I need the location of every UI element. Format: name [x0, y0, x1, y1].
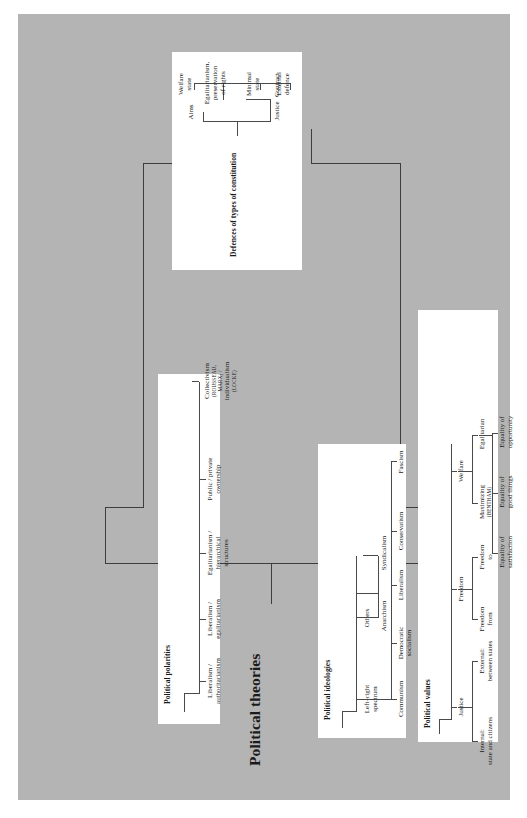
values-internal: Internal: state and citizens: [479, 710, 495, 772]
page-title: Political theories: [246, 586, 263, 766]
constitution-external-defence: External defence: [276, 56, 292, 112]
polarities-item-1: Liberalism / authoritarianism: [207, 650, 223, 712]
values-freedom-spine: [472, 558, 473, 620]
ideologies-spine: [356, 556, 357, 712]
polarities-stem: [184, 694, 185, 712]
ideologies-title: Political ideologies: [324, 600, 333, 720]
values-freedom-v: [458, 589, 472, 590]
polarities-tick-3: [199, 553, 206, 554]
values-equality-opportunity: Equality of opportunity: [499, 404, 515, 460]
values-title: Political values: [424, 618, 433, 728]
constitution-stem: [237, 122, 238, 136]
diagram-stage: Political theories Political polarities: [18, 14, 510, 800]
ideologies-leftright-v: [363, 699, 391, 700]
polarities-tick-4: [199, 479, 206, 480]
branch-to-values-v: [311, 163, 401, 164]
branch-to-polarities: [105, 507, 106, 564]
diagram-page: Political theories Political polarities: [0, 0, 527, 818]
ideologies-communism: Communism: [398, 670, 406, 728]
ideologies-stem-v: [342, 711, 356, 712]
polarities-item-4: Public / private ownership: [207, 446, 223, 512]
constitution-egalitarianism: Egalitarianism, preservation of rights: [204, 46, 227, 120]
political-polarities-title: Political polarities: [164, 574, 173, 704]
polarities-item-2: Liberalism / egalitarianism: [207, 588, 223, 650]
constitution-spine: [203, 121, 271, 122]
values-justice-spine: [472, 662, 473, 742]
ideologies-others-spine: [378, 556, 379, 618]
constitution-justice-tick: [270, 112, 271, 122]
ideologies-stem: [342, 712, 343, 728]
polarities-spine: [199, 382, 200, 694]
branch-to-polarities-v: [105, 507, 144, 508]
branch-to-values-stub: [311, 129, 312, 164]
ideologies-liberalism: Liberalism: [398, 560, 406, 610]
ideologies-anarchism: Anarchism: [381, 590, 389, 642]
values-spine: [451, 444, 452, 720]
diagram-panel: Political theories Political polarities: [18, 14, 510, 800]
ideologies-conservatism: Conservatism: [398, 500, 406, 562]
values-welfare-spine: [472, 436, 473, 504]
ideologies-syndicalism-v: [363, 555, 378, 556]
values-stem: [439, 720, 440, 734]
constitution-minimal-state: Minimal state: [246, 58, 262, 110]
ideologies-anarchism-v: [363, 617, 378, 618]
ideologies-fascism: Fascism: [398, 438, 406, 486]
polarities-tick-5: [192, 381, 199, 382]
values-stem-v: [439, 719, 451, 720]
polarities-item-5-line5: (LOCKE): [232, 346, 238, 416]
ideologies-leaf-spine: [391, 462, 392, 700]
polarities-spine-drop: [184, 693, 200, 694]
ideologies-others-v: [356, 593, 378, 594]
values-equality-v: [479, 435, 492, 436]
polarities-tick-2: [199, 619, 206, 620]
constitution-leaf-tick-1: [194, 83, 195, 90]
ideologies-syndicalism: Syndicalism: [381, 526, 389, 580]
values-welfare-v: [458, 471, 472, 472]
trunk-stub: [271, 564, 272, 604]
constitution-contract-h: [270, 99, 271, 112]
constitution-title: Defences of types of constitution: [230, 92, 239, 257]
branch-to-polarities-h: [143, 163, 144, 508]
ideologies-democratic-socialism: Democratic socialism: [398, 614, 414, 672]
values-freedom-from: Freedom from: [479, 594, 495, 644]
ideologies-tick-leftright: [356, 699, 363, 700]
polarities-item-3: Egalitarianism / hierarchical structures: [207, 520, 230, 586]
values-equality-spine: [492, 434, 493, 554]
values-egalitarian: Egalitarian: [479, 408, 487, 460]
values-justice-v: [458, 707, 472, 708]
values-equality-satisfaction: Equality of satisfaction: [499, 524, 515, 580]
ideologies-others: Others: [364, 594, 372, 642]
ideologies-tick-others: [356, 617, 363, 618]
constitution-welfare-state: Welfare state: [178, 58, 194, 110]
polarities-tick-1: [199, 681, 206, 682]
values-equality-good-things: Equality of good things: [499, 464, 515, 520]
